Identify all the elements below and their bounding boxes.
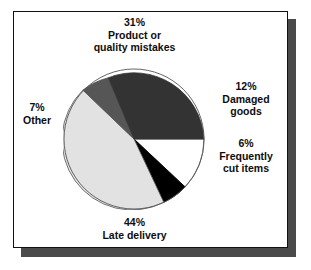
pie-label-damaged-goods: 12% Damaged goods [203, 80, 289, 118]
pie-label-cut-line2: cut items [201, 162, 291, 175]
pie-label-late-percent: 44% [62, 216, 207, 229]
pie-chart: 31% Product or quality mistakes 12% Dama… [0, 0, 311, 270]
pie-label-product-or-quality-mistakes: 31% Product or quality mistakes [62, 16, 207, 54]
pie-label-frequently-cut-items: 6% Frequently cut items [201, 137, 291, 175]
pie-label-other-percent: 7% [10, 101, 64, 114]
pie-label-other: 7% Other [10, 101, 64, 126]
pie-label-damaged-line1: Damaged [203, 93, 289, 106]
pie-label-product-percent: 31% [62, 16, 207, 29]
pie-chart-svg [63, 68, 205, 210]
pie-label-other-line1: Other [10, 114, 64, 127]
pie-label-late-delivery: 44% Late delivery [62, 216, 207, 241]
pie-label-product-line2: quality mistakes [62, 41, 207, 54]
figure-root: 31% Product or quality mistakes 12% Dama… [0, 0, 311, 270]
pie-label-cut-line1: Frequently [201, 150, 291, 163]
pie-label-damaged-line2: goods [203, 105, 289, 118]
pie-label-late-line1: Late delivery [62, 229, 207, 242]
pie-label-damaged-percent: 12% [203, 80, 289, 93]
pie-label-product-line1: Product or [62, 29, 207, 42]
pie-label-cut-percent: 6% [201, 137, 291, 150]
